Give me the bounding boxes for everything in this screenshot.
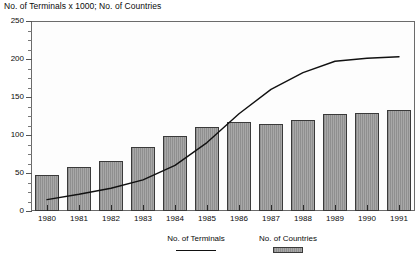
y-axis-tick-label: 200 [11, 55, 24, 63]
x-axis-tick-label-1989: 1989 [326, 214, 344, 223]
x-axis-tick-label-1983: 1983 [134, 214, 152, 223]
legend-entry-countries[interactable]: No. of Countries [238, 234, 338, 253]
x-axis: 1980198119821983198419851986198719881989… [31, 211, 415, 231]
bar-series-no-of-countries [31, 21, 415, 211]
legend-swatch-bar-icon [273, 247, 303, 253]
x-axis-tick [111, 205, 112, 211]
x-axis-tick-label-1984: 1984 [166, 214, 184, 223]
bar-1987 [259, 124, 282, 211]
bar-1983 [131, 147, 154, 211]
legend-swatch-wrapper [238, 247, 338, 253]
x-axis-tick [335, 205, 336, 211]
x-axis-tick-label-1988: 1988 [294, 214, 312, 223]
chart-legend: No. of TerminalsNo. of Countries [0, 234, 419, 256]
x-axis-tick [47, 205, 48, 211]
x-axis-tick [79, 205, 80, 211]
x-axis-tick [207, 205, 208, 211]
x-axis-tick-label-1985: 1985 [198, 214, 216, 223]
bar-1985 [195, 127, 218, 211]
x-axis-tick [271, 205, 272, 211]
legend-label: No. of Countries [238, 234, 338, 244]
bar-1988 [291, 120, 314, 211]
bar-1990 [355, 113, 378, 211]
y-axis-tick-label: 0 [20, 207, 24, 215]
bar-1989 [323, 114, 346, 211]
x-axis-tick-label-1986: 1986 [230, 214, 248, 223]
x-axis-tick [367, 205, 368, 211]
legend-entry-terminals[interactable]: No. of Terminals [146, 234, 246, 253]
bar-1991 [387, 110, 410, 211]
legend-label: No. of Terminals [146, 234, 246, 244]
bar-1982 [99, 161, 122, 211]
y-axis-tick-label: 150 [11, 93, 24, 101]
y-axis-tick-label: 100 [11, 131, 24, 139]
x-axis-tick [175, 205, 176, 211]
x-axis-tick-label-1991: 1991 [390, 214, 408, 223]
y-axis: 050100150200250 [0, 16, 32, 216]
bar-1984 [163, 136, 186, 211]
chart-title: No. of Terminals x 1000; No. of Countrie… [4, 1, 161, 12]
x-axis-tick [399, 205, 400, 211]
x-axis-tick-label-1981: 1981 [70, 214, 88, 223]
legend-swatch-wrapper [146, 247, 246, 253]
x-axis-tick [239, 205, 240, 211]
chart-container: No. of Terminals x 1000; No. of Countrie… [0, 0, 419, 256]
bar-1986 [227, 122, 250, 211]
x-axis-tick-label-1987: 1987 [262, 214, 280, 223]
x-axis-tick-label-1980: 1980 [38, 214, 56, 223]
x-axis-tick-label-1990: 1990 [358, 214, 376, 223]
x-axis-tick [143, 205, 144, 211]
x-axis-tick-label-1982: 1982 [102, 214, 120, 223]
legend-swatch-line-icon [176, 250, 216, 251]
x-axis-tick [303, 205, 304, 211]
y-axis-tick-label: 50 [15, 169, 24, 177]
y-axis-tick-label: 250 [11, 17, 24, 25]
